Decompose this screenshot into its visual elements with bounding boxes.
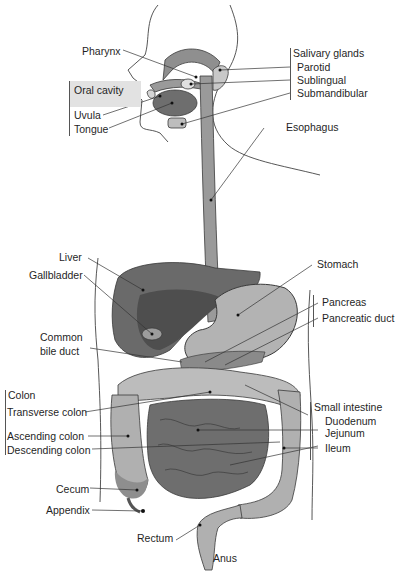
label-pancreatic-duct: Pancreatic duct xyxy=(322,312,394,324)
uvula-shape xyxy=(147,90,155,98)
label-liver: Liver xyxy=(59,251,82,263)
label-transverse-colon: Transverse colon xyxy=(7,406,87,418)
label-common-bile-duct-line2: bile duct xyxy=(40,345,79,357)
salivary-glands-bracket xyxy=(290,48,291,100)
label-duodenum: Duodenum xyxy=(325,415,376,427)
pancreas-bracket xyxy=(313,295,314,327)
label-ileum: Ileum xyxy=(325,442,351,454)
label-parotid: Parotid xyxy=(297,61,330,73)
label-salivary-glands: Salivary glands xyxy=(293,47,364,59)
label-small-intestine: Small intestine xyxy=(314,401,382,413)
label-tongue: Tongue xyxy=(74,123,108,135)
colon-bracket xyxy=(5,390,6,455)
submandibular-shape xyxy=(168,118,186,128)
label-esophagus: Esophagus xyxy=(286,121,339,133)
label-oral-cavity: Oral cavity xyxy=(74,84,124,96)
oral-cavity-bracket xyxy=(69,81,70,136)
label-pharynx: Pharynx xyxy=(82,45,121,57)
oral-region xyxy=(147,49,228,128)
label-pancreas: Pancreas xyxy=(322,296,366,308)
label-colon: Colon xyxy=(8,389,35,401)
label-uvula: Uvula xyxy=(74,109,101,121)
label-gallbladder: Gallbladder xyxy=(29,269,83,281)
label-appendix: Appendix xyxy=(46,504,90,516)
tongue-shape xyxy=(153,90,197,116)
label-jejunum: Jejunum xyxy=(325,427,365,439)
appendix-shape xyxy=(128,498,140,512)
label-submandibular: Submandibular xyxy=(297,87,368,99)
label-stomach: Stomach xyxy=(317,258,358,270)
label-cecum: Cecum xyxy=(56,483,89,495)
label-rectum: Rectum xyxy=(137,532,173,544)
label-descending-colon: Descending colon xyxy=(7,444,90,456)
label-sublingual: Sublingual xyxy=(297,74,346,86)
small-intestine-bracket xyxy=(310,402,311,460)
label-common-bile-duct-line1: Common xyxy=(40,331,83,343)
label-ascending-colon: Ascending colon xyxy=(7,430,84,442)
label-anus: Anus xyxy=(213,552,237,564)
